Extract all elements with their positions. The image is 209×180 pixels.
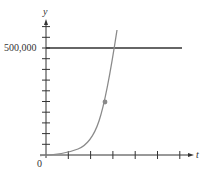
y-axis-arrow-icon <box>44 19 48 25</box>
marked-point <box>103 100 108 105</box>
x-axis-label: t <box>196 150 199 160</box>
level-label-500000: 500,000 <box>4 43 37 53</box>
x-axis-arrow-icon <box>188 153 194 157</box>
exponential-growth-chart <box>0 0 209 180</box>
y-axis-label: y <box>43 7 47 17</box>
origin-label: 0 <box>37 159 42 169</box>
growth-curve <box>40 30 117 156</box>
